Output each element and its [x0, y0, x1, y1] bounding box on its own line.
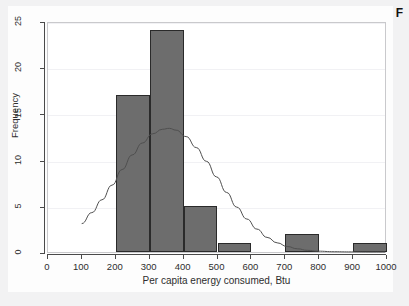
y-tick-mark-15 [40, 114, 44, 115]
x-tick-mark-700 [284, 255, 285, 259]
x-tick-mark-200 [115, 255, 116, 259]
y-tick-mark-25 [40, 22, 44, 23]
y-tick-label-25: 25 [13, 3, 23, 39]
x-tick-mark-900 [352, 255, 353, 259]
x-tick-mark-0 [47, 255, 48, 259]
x-tick-mark-500 [217, 255, 218, 259]
y-tick-label-5: 5 [13, 188, 23, 224]
y-tick-mark-20 [40, 68, 44, 69]
y-axis-line [44, 22, 45, 254]
histogram-figure: F 0510152025 Frequency 01002003004005006… [0, 0, 409, 306]
normal-density-curve [48, 23, 385, 252]
x-tick-mark-100 [81, 255, 82, 259]
y-tick-mark-5 [40, 207, 44, 208]
x-tick-mark-800 [318, 255, 319, 259]
figure-corner-label: F [396, 6, 403, 20]
x-tick-mark-600 [250, 255, 251, 259]
x-tick-label-1000: 1000 [366, 261, 406, 272]
y-axis-title: Frequency [9, 66, 20, 166]
plot-region [47, 22, 386, 253]
y-tick-mark-0 [40, 253, 44, 254]
x-tick-mark-400 [183, 255, 184, 259]
x-tick-mark-300 [149, 255, 150, 259]
x-axis-title: Per capita energy consumed, Btu [47, 275, 386, 286]
y-tick-label-0: 0 [13, 234, 23, 270]
y-tick-mark-10 [40, 161, 44, 162]
x-tick-mark-1000 [386, 255, 387, 259]
